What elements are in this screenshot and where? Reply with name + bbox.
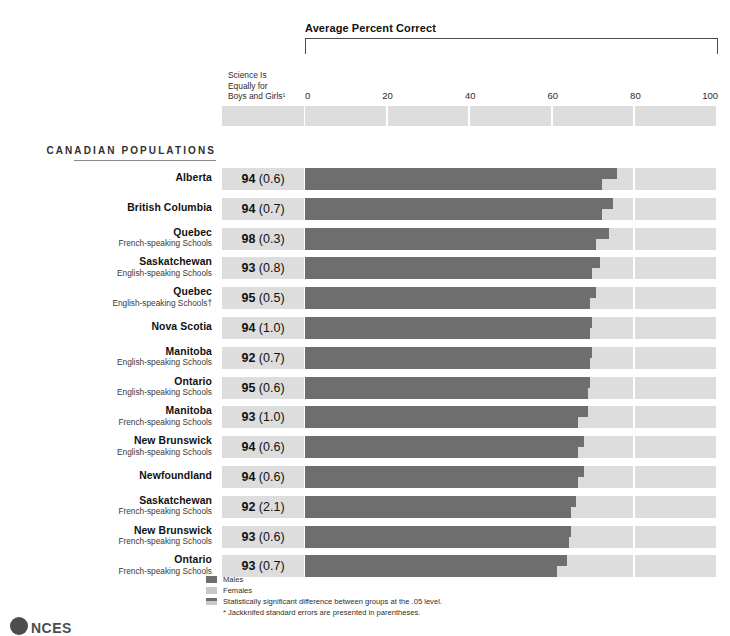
- row-label: Nova Scotia: [0, 317, 212, 333]
- row-plot: [305, 377, 718, 399]
- stat-cell: 94 (0.7): [222, 198, 304, 220]
- stat-value: 95: [241, 291, 255, 305]
- row-plot: [305, 347, 718, 369]
- row-plot: [305, 496, 718, 518]
- stat-value: 94: [241, 321, 255, 335]
- chart-row: Nova Scotia94 (1.0): [0, 317, 730, 339]
- legend-item: Statistically significant difference bet…: [206, 597, 706, 607]
- chart-row: SaskatchewanFrench-speaking Schools92 (2…: [0, 496, 730, 518]
- chart-row: British Columbia94 (0.7): [0, 198, 730, 220]
- row-label: New BrunswickFrench-speaking Schools: [0, 526, 212, 547]
- track-segment: [635, 466, 716, 488]
- bar-males: [305, 555, 567, 566]
- row-plot: [305, 168, 718, 190]
- row-label-name: New Brunswick: [0, 436, 212, 447]
- bar-males: [305, 526, 571, 537]
- row-label-subtitle: French-speaking Schools: [0, 536, 212, 547]
- bar-males: [305, 347, 592, 358]
- bar-females: [305, 239, 596, 250]
- stat-value: 98: [241, 232, 255, 246]
- legend-swatch-males-icon: [206, 576, 217, 583]
- stat-standard-error: (0.6): [259, 470, 285, 484]
- bar-males: [305, 168, 617, 179]
- bar-males: [305, 228, 609, 239]
- stat-standard-error: (1.0): [259, 410, 285, 424]
- legend-label: Females: [223, 586, 252, 596]
- bar-males: [305, 317, 592, 328]
- chart-row: New BrunswickFrench-speaking Schools93 (…: [0, 526, 730, 548]
- chart-row: ManitobaFrench-speaking Schools93 (1.0): [0, 406, 730, 428]
- nces-logo-icon: [10, 617, 28, 635]
- bar-males: [305, 406, 588, 417]
- stat-cell: 94 (0.6): [222, 168, 304, 190]
- row-label-name: Quebec: [0, 287, 212, 298]
- bar-females: [305, 179, 602, 190]
- chart-row: QuebecFrench-speaking Schools98 (0.3): [0, 228, 730, 250]
- row-label-name: Ontario: [0, 555, 212, 566]
- bar-females: [305, 268, 592, 279]
- stat-value: 92: [241, 351, 255, 365]
- footnote-text: Jackknifed standard errors are presented…: [228, 608, 420, 618]
- row-label-name: Quebec: [0, 228, 212, 239]
- track-segment: [635, 168, 716, 190]
- row-label-name: British Columbia: [0, 198, 212, 214]
- stat-value: 93: [241, 410, 255, 424]
- bar-females: [305, 447, 578, 458]
- row-plot: [305, 466, 718, 488]
- chart-row: New BrunswickEnglish-speaking Schools94 …: [0, 436, 730, 458]
- legend-item: Males: [206, 575, 706, 585]
- track-segment: [635, 228, 716, 250]
- track-segment: [635, 287, 716, 309]
- row-label: Newfoundland: [0, 466, 212, 482]
- stat-standard-error: (0.6): [259, 530, 285, 544]
- row-label-name: New Brunswick: [0, 526, 212, 537]
- row-label-subtitle: English-speaking Schools: [0, 357, 212, 368]
- row-label-name: Saskatchewan: [0, 496, 212, 507]
- row-plot: [305, 257, 718, 279]
- track-segment: [635, 406, 716, 428]
- stat-standard-error: (0.6): [259, 172, 285, 186]
- stat-cell: 92 (2.1): [222, 496, 304, 518]
- track-segment: [635, 198, 716, 220]
- track-segment: [635, 347, 716, 369]
- legend-swatch-sig-icon: [206, 598, 217, 605]
- bar-females: [305, 298, 590, 309]
- stat-cell: 93 (1.0): [222, 406, 304, 428]
- row-plot: [305, 198, 718, 220]
- chart-row: OntarioEnglish-speaking Schools95 (0.6): [0, 377, 730, 399]
- stat-value: 93: [241, 559, 255, 573]
- bar-females: [305, 477, 578, 488]
- stat-value: 94: [241, 202, 255, 216]
- row-plot: [305, 526, 718, 548]
- track-segment: [635, 526, 716, 548]
- stat-standard-error: (1.0): [259, 321, 285, 335]
- bar-males: [305, 466, 584, 477]
- stat-value: 93: [241, 530, 255, 544]
- stat-cell: 95 (0.5): [222, 287, 304, 309]
- stat-cell: 92 (0.7): [222, 347, 304, 369]
- row-label-name: Manitoba: [0, 347, 212, 358]
- bar-males: [305, 198, 613, 209]
- stat-standard-error: (2.1): [259, 500, 285, 514]
- bar-females: [305, 537, 569, 548]
- row-label-name: Manitoba: [0, 406, 212, 417]
- row-label: QuebecEnglish-speaking Schools†: [0, 287, 212, 308]
- stat-standard-error: (0.5): [259, 291, 285, 305]
- row-label: QuebecFrench-speaking Schools: [0, 228, 212, 249]
- chart-row: Alberta94 (0.6): [0, 168, 730, 190]
- bar-females: [305, 209, 602, 220]
- row-label: Alberta: [0, 168, 212, 184]
- legend-swatch-females-icon: [206, 587, 217, 594]
- bar-females: [305, 507, 571, 518]
- legend-label: Statistically significant difference bet…: [223, 597, 442, 607]
- stat-standard-error: (0.7): [259, 351, 285, 365]
- row-label: British Columbia: [0, 198, 212, 214]
- row-plot: [305, 317, 718, 339]
- row-label: New BrunswickEnglish-speaking Schools: [0, 436, 212, 457]
- row-label-subtitle: English-speaking Schools: [0, 447, 212, 458]
- stat-standard-error: (0.6): [259, 381, 285, 395]
- stat-value: 94: [241, 440, 255, 454]
- bar-males: [305, 436, 584, 447]
- row-label-name: Newfoundland: [0, 466, 212, 482]
